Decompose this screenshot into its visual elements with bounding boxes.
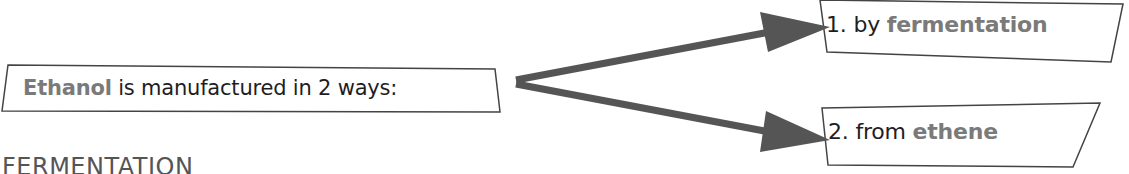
main-box-text: is manufactured in 2 ways: (112, 76, 397, 100)
highlight-term: fermentation (887, 12, 1048, 37)
section-heading: FERMENTATION (2, 153, 193, 174)
way1-prefix: 1. by (826, 12, 887, 37)
way1-label: 1. by fermentation (826, 12, 1047, 37)
way2-prefix: 2. from (828, 119, 913, 144)
arrow-icon (516, 12, 830, 80)
arrow-icon (516, 84, 830, 152)
highlight-term: Ethanol (23, 76, 112, 100)
main-box-label: Ethanol is manufactured in 2 ways: (23, 76, 397, 100)
highlight-term: ethene (913, 119, 998, 144)
way2-label: 2. from ethene (828, 119, 998, 144)
